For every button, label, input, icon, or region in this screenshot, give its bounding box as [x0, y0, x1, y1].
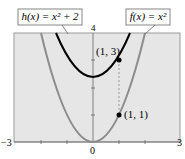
point-1-3-label: (1, 3): [96, 45, 120, 57]
point-1-3: [117, 58, 122, 63]
y-max-label: 4: [91, 23, 96, 33]
point-1-1: [117, 113, 122, 118]
point-1-1-label: (1, 1): [124, 108, 148, 120]
x-zero-label: 0: [90, 145, 95, 156]
x-max-label: 3: [177, 137, 182, 148]
f-label: f(x) = x²: [126, 10, 170, 22]
x-min-label: −3: [1, 137, 12, 148]
h-label: h(x) = x² + 2: [18, 10, 82, 22]
